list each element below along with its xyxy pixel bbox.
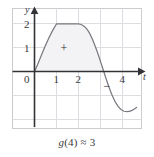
caption-expression: (4) ≈ 3 [64,136,95,148]
figure-caption: g(4) ≈ 3 [0,136,154,148]
positive-region-sign: + [61,41,68,55]
negative-region-sign: − [104,79,111,93]
graph-plot-area: y t 0 2 1 1 2 4 + − [0,0,154,137]
x-tick-label-1: 1 [54,73,60,85]
x-tick-label-4: 4 [120,73,126,85]
x-axis-label: t [143,71,146,82]
y-tick-label-2: 2 [24,18,30,30]
y-tick-label-1: 1 [24,42,30,54]
y-axis-label: y [24,4,30,15]
origin-tick-label: 0 [24,73,30,85]
figure-container: y t 0 2 1 1 2 4 + − g(4) ≈ 3 [0,0,154,157]
x-tick-label-2: 2 [76,73,82,85]
graph-svg: y t 0 2 1 1 2 4 + − [0,0,154,137]
